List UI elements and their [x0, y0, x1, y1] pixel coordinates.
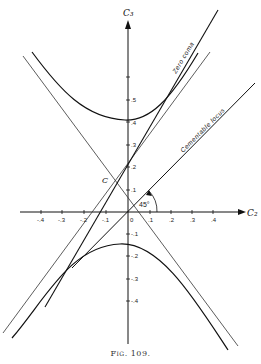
- diagram-canvas: -.4 -.3 -.2 -.1 0 .1 .2 .3 .4 .1 .2 .3 .…: [0, 0, 261, 364]
- y-tick-label: .4: [131, 120, 137, 126]
- y-axis-label: C₃: [123, 8, 134, 18]
- x-tick-label: -.4: [37, 217, 45, 223]
- x-tick-label: -.3: [58, 217, 66, 223]
- x-tick-label: 0: [130, 217, 134, 223]
- asymptote-ascending: [3, 52, 210, 333]
- cementable-locus-label: Cementable locus: [179, 106, 227, 154]
- hyperbola-lower-branch: [12, 244, 228, 350]
- y-tick-label: .5: [131, 97, 137, 103]
- y-tick-label: -.2: [131, 253, 139, 259]
- cementable-locus-line: [72, 83, 255, 268]
- x-tick-label: .4: [211, 217, 217, 223]
- x-tick-label: .1: [148, 217, 154, 223]
- point-c-label: C: [102, 176, 108, 185]
- x-tick-label: -.1: [102, 217, 110, 223]
- y-axis-arrow-icon: [125, 20, 131, 29]
- x-axis-arrow-icon: [238, 209, 246, 215]
- y-tick-label: .2: [131, 164, 137, 170]
- y-tick-label: -.1: [131, 231, 139, 237]
- zero-coma-line: [45, 10, 218, 307]
- figure-caption: Fig. 109.: [0, 349, 261, 358]
- y-tick-label: -.3: [131, 276, 139, 282]
- y-tick-label: -.4: [131, 298, 139, 304]
- y-tick-label: .1: [131, 187, 137, 193]
- x-tick-label: .2: [169, 217, 175, 223]
- x-axis-label: C₂: [247, 208, 258, 218]
- x-tick-label: .3: [190, 217, 196, 223]
- y-tick-label: .3: [131, 142, 137, 148]
- angle-label: 45°: [139, 201, 150, 208]
